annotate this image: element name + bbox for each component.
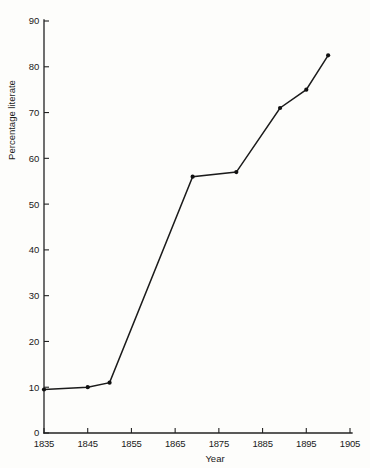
data-point xyxy=(191,175,195,179)
y-tick-label: 0 xyxy=(34,427,39,438)
y-tick-label: 10 xyxy=(29,382,39,393)
y-axis-group: 0102030405060708090 Percentage literate xyxy=(6,15,49,438)
y-tick-label: 40 xyxy=(29,244,39,255)
y-tick-label: 80 xyxy=(29,61,39,72)
data-line-series xyxy=(44,55,328,389)
x-tick-label: 1865 xyxy=(165,438,185,449)
y-tick-label: 30 xyxy=(29,290,39,301)
data-point xyxy=(304,88,308,92)
x-tick-label: 1855 xyxy=(121,438,141,449)
y-tick-label: 60 xyxy=(29,153,39,164)
y-axis-tick-labels: 0102030405060708090 xyxy=(29,15,39,438)
x-tick-label: 1895 xyxy=(296,438,316,449)
x-tick-label: 1875 xyxy=(209,438,229,449)
x-tick-label: 1905 xyxy=(340,438,360,449)
data-point xyxy=(107,381,111,385)
y-tick-label: 20 xyxy=(29,336,39,347)
chart-canvas: 0102030405060708090 Percentage literate … xyxy=(0,0,370,468)
data-point xyxy=(42,387,46,391)
data-point xyxy=(326,53,330,57)
y-axis-ticks xyxy=(44,21,49,433)
y-tick-label: 50 xyxy=(29,199,39,210)
data-point xyxy=(86,385,90,389)
x-axis-ticks xyxy=(44,428,350,433)
y-tick-label: 70 xyxy=(29,107,39,118)
series-group xyxy=(42,53,330,391)
y-tick-label: 90 xyxy=(29,15,39,26)
x-axis-title: Year xyxy=(205,453,224,464)
x-tick-label: 1885 xyxy=(252,438,272,449)
chart-figure: 0102030405060708090 Percentage literate … xyxy=(0,0,370,468)
data-point xyxy=(234,170,238,174)
y-axis-title: Percentage literate xyxy=(6,80,17,160)
x-axis-tick-labels: 18351845185518651875188518951905 xyxy=(34,438,360,449)
data-point xyxy=(278,106,282,110)
x-tick-label: 1845 xyxy=(78,438,98,449)
x-tick-label: 1835 xyxy=(34,438,54,449)
x-axis-group: 18351845185518651875188518951905 Year xyxy=(34,428,360,464)
